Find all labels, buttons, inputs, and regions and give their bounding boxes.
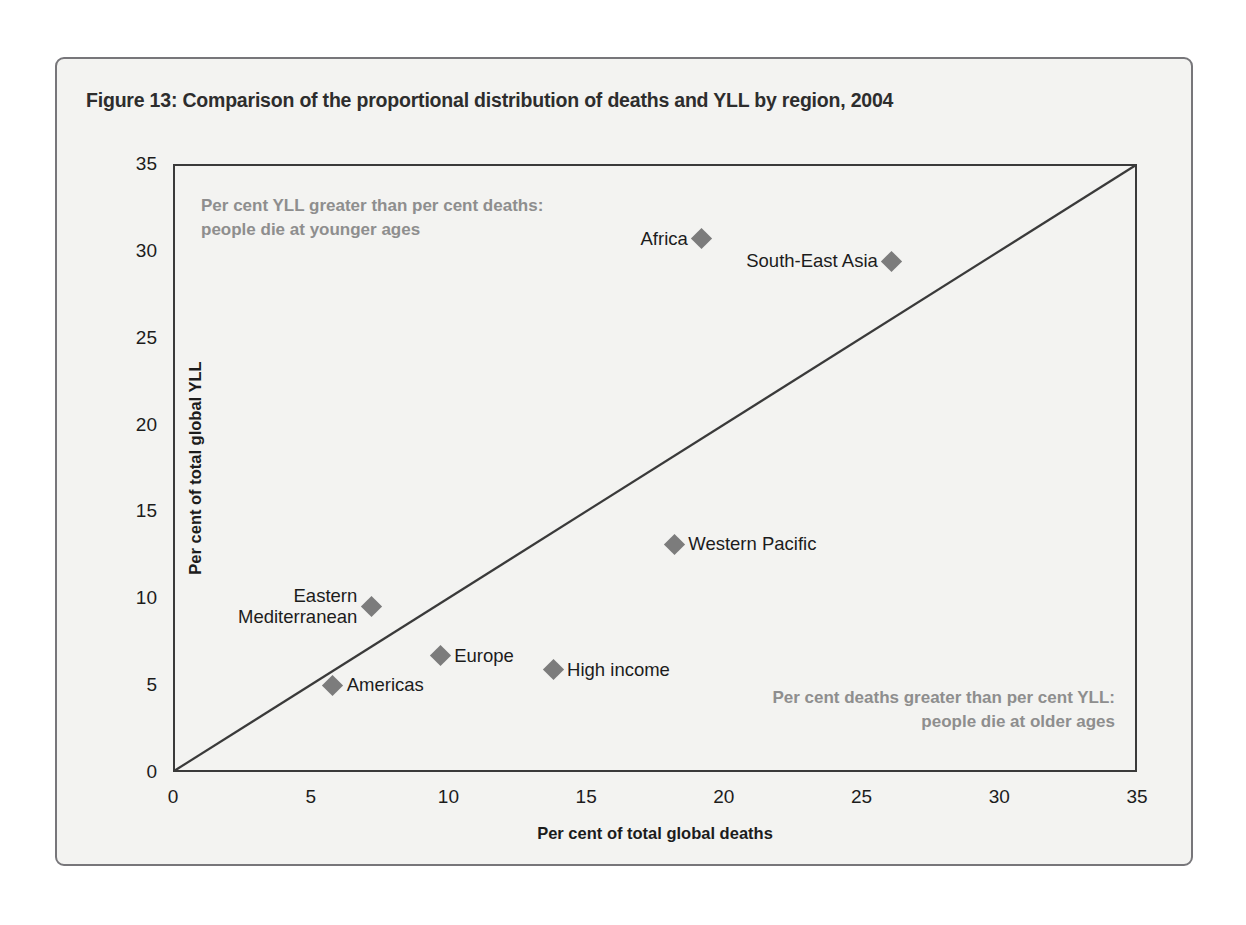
x-tick-label: 10 [438,786,459,808]
y-tick-label: 20 [136,414,157,436]
data-point-label: Western Pacific [688,534,816,555]
data-point-label: South-East Asia [746,251,878,272]
data-point-label-line: Africa [641,227,688,248]
y-axis-label: Per cent of total global YLL [186,361,205,574]
annotation-older-ages: Per cent deaths greater than per cent YL… [772,686,1115,734]
identity-reference-line [173,164,1137,772]
x-tick-label: 25 [851,786,872,808]
data-point-label-line: Mediterranean [238,606,357,627]
annotation-younger-ages: Per cent YLL greater than per cent death… [201,194,543,242]
data-point-label-line: Eastern [294,585,358,606]
data-point-label: Europe [454,645,514,666]
y-tick-label: 5 [146,674,157,696]
y-tick-label: 30 [136,240,157,262]
data-point-label-line: High income [567,658,670,679]
x-tick-label: 0 [168,786,179,808]
data-point-label-line: Americas [347,674,424,695]
y-tick-label: 35 [136,153,157,175]
scatter-plot: 05101520253035 05101520253035 AfricaSout… [173,164,1137,772]
x-tick-label: 20 [713,786,734,808]
figure-title: Figure 13: Comparison of the proportiona… [86,89,893,112]
data-point-label-line: Europe [454,644,514,665]
data-point-label: High income [567,659,670,680]
data-point-label: Americas [347,675,424,696]
figure-panel: Figure 13: Comparison of the proportiona… [55,57,1193,866]
y-tick-label: 25 [136,327,157,349]
data-point-label-line: South-East Asia [746,250,878,271]
data-point-label: Africa [641,228,688,249]
y-tick-label: 0 [146,761,157,783]
data-point-label-line: Western Pacific [688,533,816,554]
x-axis-label: Per cent of total global deaths [537,824,773,843]
x-tick-label: 5 [305,786,316,808]
y-tick-label: 15 [136,500,157,522]
x-tick-label: 35 [1126,786,1147,808]
y-tick-label: 10 [136,587,157,609]
x-tick-label: 30 [989,786,1010,808]
x-tick-label: 15 [576,786,597,808]
data-point-label: EasternMediterranean [238,586,357,627]
